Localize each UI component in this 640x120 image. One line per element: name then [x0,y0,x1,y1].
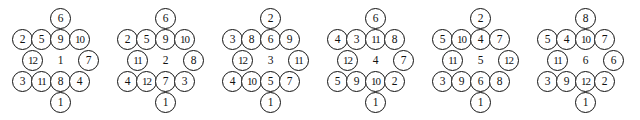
node-circle[interactable]: 4 [327,29,348,50]
node-circle[interactable]: 1 [575,92,596,113]
center-label: 2 [155,50,176,71]
node-circle[interactable]: 1 [155,92,176,113]
node-circle[interactable]: 3 [432,71,453,92]
node-circle[interactable]: 1 [365,92,386,113]
node-circle[interactable]: 2 [384,71,405,92]
node-circle[interactable]: 6 [260,29,281,50]
node-circle[interactable]: 11 [365,29,386,50]
node-circle[interactable]: 5 [260,71,281,92]
node-circle[interactable]: 5 [31,29,52,50]
node-circle[interactable]: 6 [50,8,71,29]
node-circle[interactable]: 3 [222,29,243,50]
node-circle[interactable]: 5 [432,29,453,50]
node-circle[interactable]: 12 [22,50,43,71]
node-circle[interactable]: 9 [451,71,472,92]
node-circle[interactable]: 12 [232,50,253,71]
node-circle[interactable]: 10 [451,29,472,50]
node-circle[interactable]: 11 [288,50,309,71]
node-circle[interactable]: 3 [537,71,558,92]
node-circle[interactable]: 9 [556,71,577,92]
node-circle[interactable]: 1 [50,92,71,113]
node-circle[interactable]: 8 [183,50,204,71]
node-circle[interactable]: 12 [337,50,358,71]
node-circle[interactable]: 10 [241,71,262,92]
node-circle[interactable]: 1 [470,92,491,113]
node-circle[interactable]: 8 [489,71,510,92]
node-circle[interactable]: 3 [346,29,367,50]
node-circle[interactable]: 7 [489,29,510,50]
node-circle[interactable]: 4 [69,71,90,92]
node-circle[interactable]: 8 [384,29,405,50]
figure-6: 8541071166391221 [525,0,635,120]
node-circle[interactable]: 2 [594,71,615,92]
node-circle[interactable]: 8 [575,8,596,29]
figure-2: 6259101128412731 [105,0,215,120]
node-circle[interactable]: 11 [442,50,463,71]
center-label: 5 [470,50,491,71]
node-circle[interactable]: 10 [174,29,195,50]
node-circle[interactable]: 2 [470,8,491,29]
node-circle[interactable]: 4 [470,29,491,50]
node-circle[interactable]: 7 [393,50,414,71]
center-label: 6 [575,50,596,71]
node-circle[interactable]: 7 [279,71,300,92]
node-circle[interactable]: 8 [241,29,262,50]
node-circle[interactable]: 11 [547,50,568,71]
node-circle[interactable]: 6 [470,71,491,92]
center-label: 4 [365,50,386,71]
node-circle[interactable]: 3 [174,71,195,92]
node-circle[interactable]: 7 [155,71,176,92]
node-circle[interactable]: 11 [31,71,52,92]
node-circle[interactable]: 4 [556,29,577,50]
node-circle[interactable]: 5 [327,71,348,92]
node-circle[interactable]: 2 [12,29,33,50]
node-circle[interactable]: 9 [279,29,300,50]
node-circle[interactable]: 2 [260,8,281,29]
node-circle[interactable]: 12 [575,71,596,92]
node-circle[interactable]: 7 [78,50,99,71]
node-circle[interactable]: 9 [155,29,176,50]
node-circle[interactable]: 5 [136,29,157,50]
figure-3: 2386912311410571 [210,0,320,120]
node-circle[interactable]: 8 [50,71,71,92]
node-circle[interactable]: 3 [12,71,33,92]
node-circle[interactable]: 7 [594,29,615,50]
node-circle[interactable]: 10 [69,29,90,50]
node-circle[interactable]: 6 [603,50,624,71]
node-circle[interactable]: 1 [260,92,281,113]
node-circle[interactable]: 4 [222,71,243,92]
center-label: 1 [50,50,71,71]
node-circle[interactable]: 5 [537,29,558,50]
node-circle[interactable]: 11 [127,50,148,71]
figure-4: 6431181247591021 [315,0,425,120]
node-circle[interactable]: 9 [50,29,71,50]
node-circle[interactable]: 9 [346,71,367,92]
node-circle[interactable]: 4 [117,71,138,92]
node-circle[interactable]: 10 [575,29,596,50]
node-circle[interactable]: 2 [117,29,138,50]
node-circle[interactable]: 12 [136,71,157,92]
node-circle[interactable]: 12 [498,50,519,71]
figure-1: 6259101217311841 [0,0,110,120]
diagram-canvas: 6259101217311841625910112841273123869123… [0,0,640,120]
node-circle[interactable]: 10 [365,71,386,92]
node-circle[interactable]: 6 [155,8,176,29]
figure-5: 2510471151239681 [420,0,530,120]
center-label: 3 [260,50,281,71]
node-circle[interactable]: 6 [365,8,386,29]
